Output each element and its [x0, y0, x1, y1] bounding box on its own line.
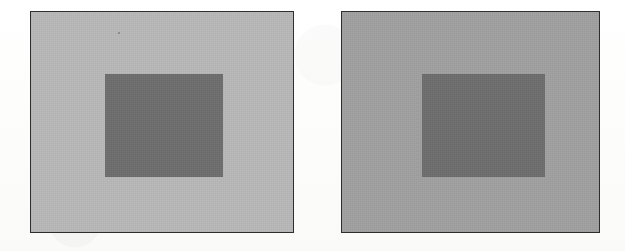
right-inner-square [422, 74, 545, 177]
left-panel [30, 11, 294, 233]
scan-artifact-speck [118, 32, 120, 34]
left-inner-square [105, 74, 223, 177]
right-panel [341, 11, 600, 233]
figure-root [0, 0, 625, 251]
